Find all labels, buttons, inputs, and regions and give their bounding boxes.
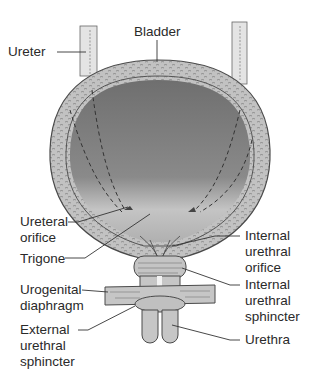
label-internal-urethral-orifice: Internal urethral orifice: [245, 228, 291, 276]
label-external-urethral-sphincter: External urethral sphincter: [20, 322, 75, 370]
label-ureter: Ureter: [8, 44, 46, 60]
label-trigone: Trigone: [20, 251, 65, 267]
ureter-right: [232, 22, 247, 84]
label-urogenital-diaphragm: Urogenital diaphragm: [20, 282, 84, 314]
urethra: [142, 310, 178, 343]
label-bladder: Bladder: [134, 24, 181, 40]
ureter-left: [80, 26, 97, 76]
bladder-diagram: Ureter Bladder Ureteral orifice Trigone …: [0, 0, 317, 389]
internal-sphincter: [134, 256, 186, 278]
label-urethra: Urethra: [245, 332, 290, 348]
label-internal-urethral-sphincter: Internal urethral sphincter: [245, 277, 300, 325]
label-ureteral-orifice: Ureteral orifice: [20, 214, 68, 246]
